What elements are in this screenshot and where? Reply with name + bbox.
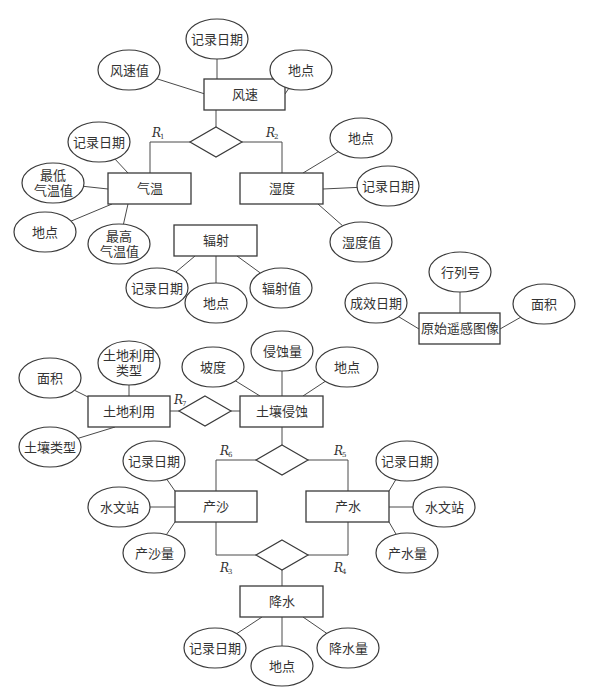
attribute-label: 最高 [106,229,132,244]
attribute-link [167,479,175,491]
relationship-subscript: 1 [160,133,164,141]
attribute-label: 产沙量 [135,546,174,561]
attribute-rs_image[interactable]: 行列号 [429,252,491,292]
attribute-label: 土地利用 [103,348,155,363]
attribute-label: 面积 [37,371,63,386]
attribute-link [75,390,88,397]
relationship-subscript: 7 [182,400,186,408]
relationship-link [242,142,282,173]
entity-label: 辐射 [203,233,229,248]
entity-label: 风速 [232,87,258,102]
attribute-humid[interactable]: 记录日期 [357,166,419,206]
attribute-link [303,617,327,633]
attribute-link [389,480,396,491]
entity-label: 土壤侵蚀 [256,404,308,419]
attribute-link [71,204,112,221]
attribute-runoff[interactable]: 产水量 [376,533,438,573]
attribute-temp[interactable]: 最低气温值 [22,163,84,203]
attribute-label: 记录日期 [362,179,414,194]
attribute-runoff[interactable]: 水文站 [413,487,475,527]
entity-humid[interactable]: 湿度 [240,173,323,204]
attribute-label: 记录日期 [131,281,183,296]
attribute-link [235,381,260,396]
attribute-label: 记录日期 [189,641,241,656]
attribute-label: 降水量 [329,641,368,656]
attribute-temp[interactable]: 记录日期 [68,122,130,162]
attribute-radiation[interactable]: 记录日期 [126,268,188,308]
attribute-landuse[interactable]: 面积 [19,358,81,398]
attribute-radiation[interactable]: 地点 [185,283,247,323]
attribute-link [303,152,338,173]
entity-wind[interactable]: 风速 [204,79,285,110]
attribute-label: 记录日期 [381,454,433,469]
attribute-link [237,617,262,634]
attribute-label: 土壤类型 [24,440,76,455]
entity-landuse[interactable]: 土地利用 [88,396,170,427]
attribute-label: 坡度 [200,360,226,375]
entity-radiation[interactable]: 辐射 [174,225,257,256]
attribute-landuse[interactable]: 土地利用类型 [98,341,160,385]
relationship-diamond[interactable] [190,127,242,157]
attribute-humid[interactable]: 地点 [330,118,392,158]
entity-sediment[interactable]: 产沙 [175,491,257,522]
attribute-radiation[interactable]: 辐射值 [250,268,312,308]
entity-erosion[interactable]: 土壤侵蚀 [240,396,323,427]
entity-label: 土地利用 [103,404,155,419]
relationship-link [308,522,348,555]
attribute-label: 地点 [203,296,229,311]
attribute-link [389,522,396,534]
attribute-label: 地点 [288,63,314,78]
attribute-wind[interactable]: 地点 [270,50,332,90]
attribute-sediment[interactable]: 记录日期 [123,441,185,481]
attribute-rs_image[interactable]: 成效日期 [345,283,407,323]
attribute-link [237,256,260,273]
relationship-diamond[interactable] [179,396,231,426]
attribute-label: 水文站 [100,500,139,515]
er-diagram: R1R2R7R6R5R3R4 风速气温湿度辐射原始遥感图像土地利用土壤侵蚀产沙产… [0,0,598,699]
attribute-erosion[interactable]: 坡度 [182,347,244,387]
attribute-label: 最低 [40,168,66,183]
attribute-label: 水文站 [425,500,464,515]
attribute-label: 地点 [269,659,295,674]
attribute-erosion[interactable]: 侵蚀量 [251,331,313,371]
attribute-erosion[interactable]: 地点 [316,347,378,387]
relationship-rel_land_erosion[interactable]: R7 [173,393,231,426]
relationship-rel_flow_precip[interactable]: R3R4 [219,540,347,576]
attribute-sediment[interactable]: 水文站 [88,487,150,527]
relationship-diamond[interactable] [256,445,308,475]
attribute-humid[interactable]: 湿度值 [330,222,392,262]
relationship-diamond[interactable] [256,540,308,570]
entity-temp[interactable]: 气温 [108,173,191,204]
relationship-link [216,522,256,555]
attribute-label: 面积 [531,297,557,312]
attribute-sediment[interactable]: 产沙量 [123,533,185,573]
attribute-rs_image[interactable]: 面积 [513,284,575,324]
attribute-temp[interactable]: 地点 [14,212,76,252]
entity-label: 湿度 [269,181,295,196]
attribute-link [123,204,128,224]
attribute-label: 气温值 [100,244,139,259]
attribute-label: 成效日期 [350,296,402,311]
attribute-link [166,522,175,535]
relationship-subscript: 2 [274,133,278,141]
attribute-link [84,186,108,189]
attribute-runoff[interactable]: 记录日期 [376,441,438,481]
attribute-precip[interactable]: 地点 [251,646,313,686]
entity-rs_image[interactable]: 原始遥感图像 [419,313,500,344]
attribute-precip[interactable]: 记录日期 [184,628,246,668]
attribute-label: 产水量 [388,546,427,561]
attribute-label: 地点 [32,225,58,240]
attribute-link [318,204,343,226]
attribute-precip[interactable]: 降水量 [317,628,379,668]
entity-label: 产水 [335,499,361,514]
attribute-landuse[interactable]: 土壤类型 [19,427,81,467]
attribute-label: 地点 [334,360,360,375]
attribute-label: 气温值 [34,183,73,198]
attribute-label: 记录日期 [73,135,125,150]
attribute-link [399,317,419,329]
entity-runoff[interactable]: 产水 [306,491,389,522]
attribute-wind[interactable]: 风速值 [98,50,160,90]
attribute-wind[interactable]: 记录日期 [186,19,248,59]
entity-precip[interactable]: 降水 [240,586,323,617]
attribute-temp[interactable]: 最高气温值 [88,224,150,264]
